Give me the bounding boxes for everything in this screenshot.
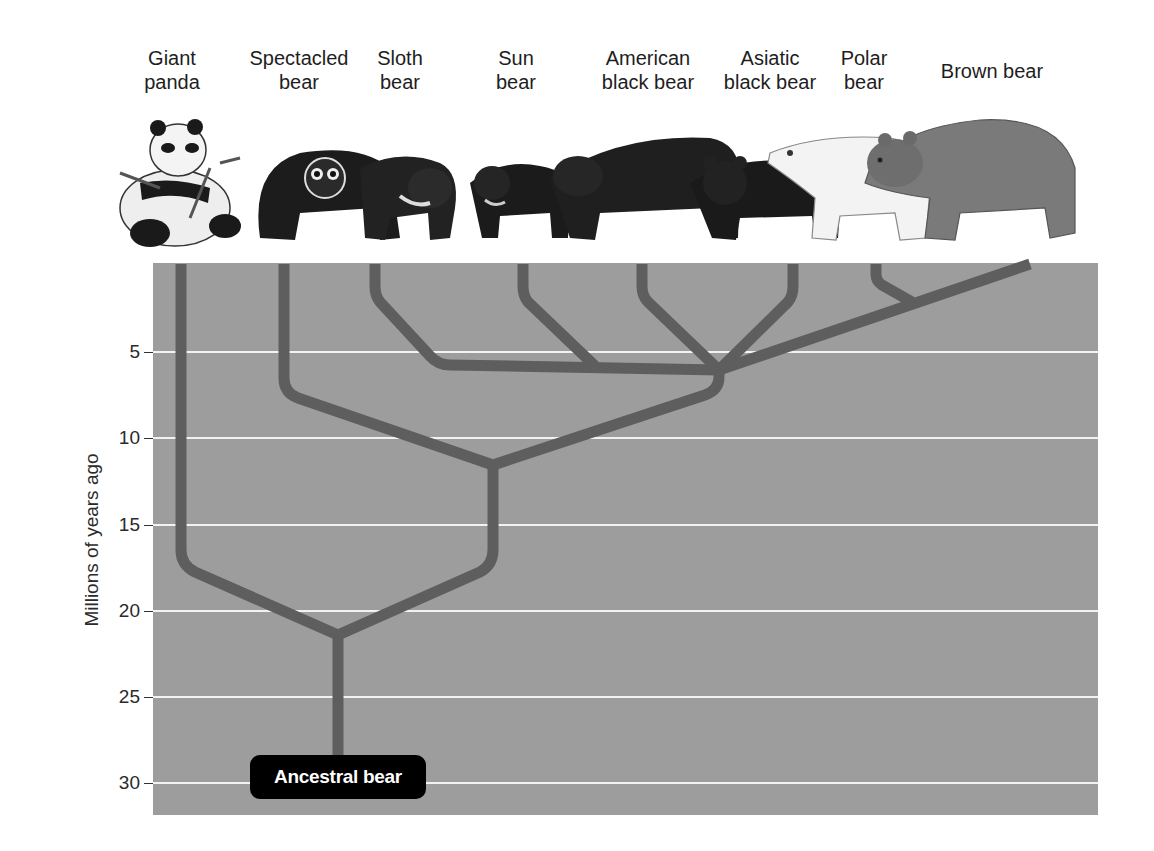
branch-giant-panda	[181, 264, 338, 635]
branch-sun-bear	[523, 264, 595, 366]
ancestral-bear-label: Ancestral bear	[274, 766, 402, 788]
branch-ursidae	[338, 465, 493, 635]
branch-ursinae	[493, 370, 719, 465]
branch-american-black-bear	[642, 264, 719, 370]
branch-polar-bear	[876, 264, 912, 302]
phylogenetic-tree	[0, 0, 1154, 851]
ancestral-bear-badge: Ancestral bear	[250, 755, 426, 799]
tree-branches	[181, 264, 1030, 770]
